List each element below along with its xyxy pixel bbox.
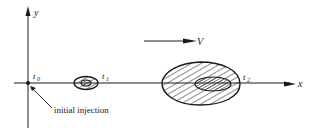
svg-text:t: t <box>102 71 105 81</box>
svg-text:0: 0 <box>37 76 40 82</box>
velocity-label: V <box>197 36 205 47</box>
x-axis-arrow-icon <box>284 82 296 87</box>
y-axis-label: y <box>33 7 39 18</box>
injection-point <box>26 81 30 85</box>
y-axis: y <box>26 6 40 128</box>
initial-injection-label: initial injection <box>54 105 109 115</box>
plume-t2 <box>162 62 240 105</box>
svg-text:2: 2 <box>247 77 250 83</box>
y-axis-arrow-icon <box>26 6 31 16</box>
annotation-arrow-icon <box>30 86 36 91</box>
velocity-arrow-icon <box>183 39 197 44</box>
t1-label: t 1 <box>102 71 109 82</box>
x-axis: x <box>14 78 303 89</box>
dispersion-diagram: y x t 0 initial injection t 1 t 2 V <box>0 0 314 138</box>
velocity-arrow: V <box>144 36 205 47</box>
x-axis-label: x <box>297 78 303 89</box>
plume-t1 <box>74 77 98 90</box>
svg-text:1: 1 <box>106 76 109 82</box>
annotation-leader-line <box>31 87 52 108</box>
svg-text:t: t <box>33 71 36 81</box>
t2-label: t 2 <box>243 72 250 83</box>
t0-label: t 0 <box>33 71 40 82</box>
svg-text:t: t <box>243 72 246 82</box>
